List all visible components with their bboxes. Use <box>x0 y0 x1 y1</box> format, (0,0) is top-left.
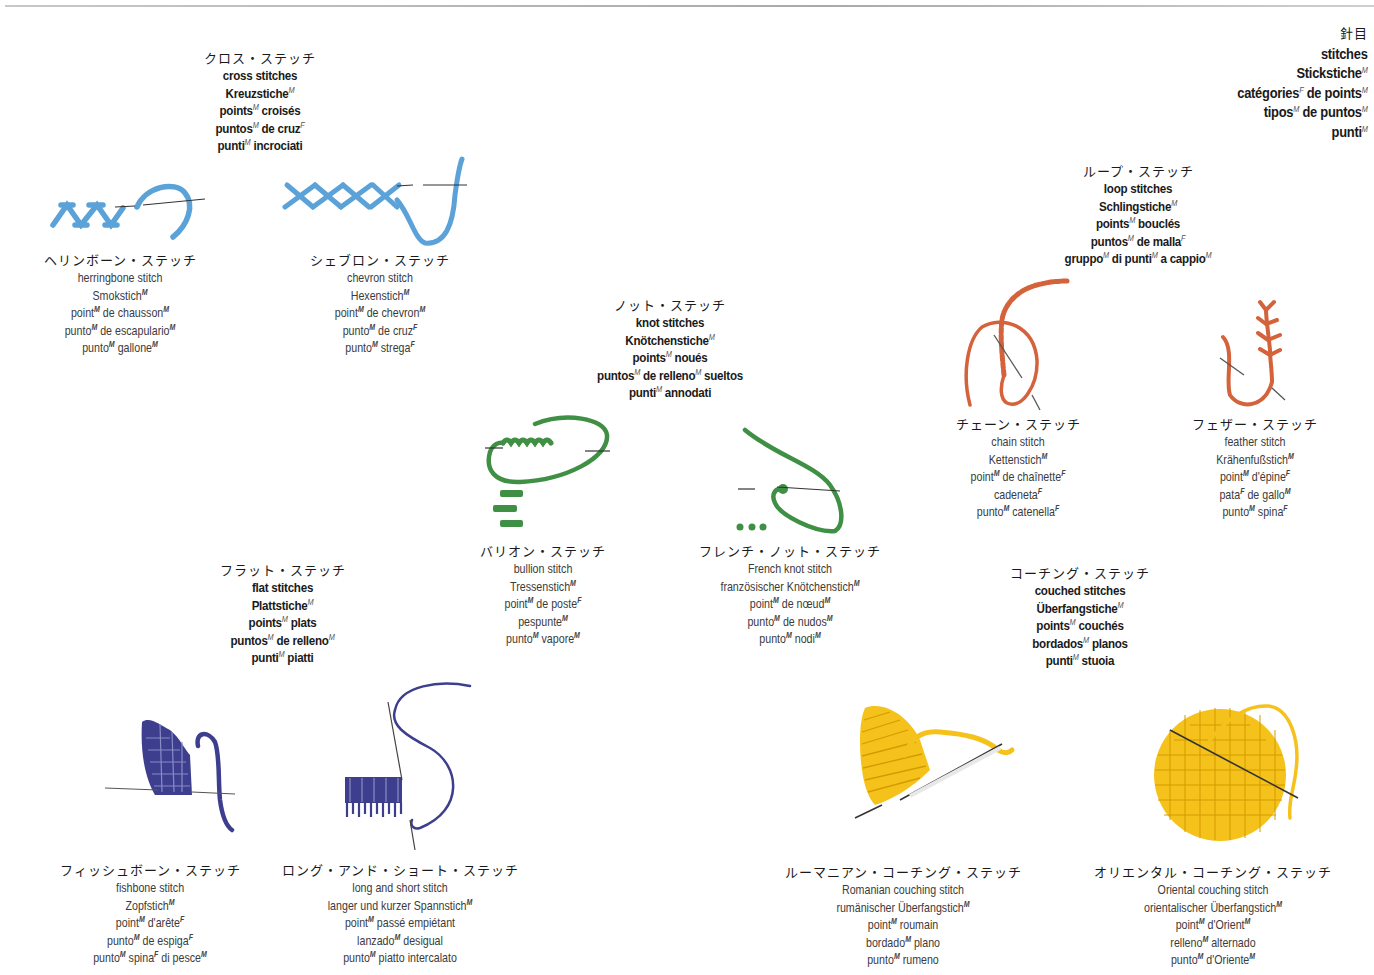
long-short-bars-icon <box>347 803 401 817</box>
label-line: bordadoM plano <box>796 934 1009 951</box>
top-rule <box>5 5 1374 7</box>
term-text: punto <box>82 340 109 355</box>
label-line: herringbone stitch <box>38 269 202 286</box>
label-line: puntiM incrociati <box>196 137 325 154</box>
item-feather-stitch: フェザー・ステッチfeather stitchKrähenfußstichMpo… <box>1155 416 1355 520</box>
label-line: pointM de posteF <box>461 595 625 612</box>
label-line: pointM de chaînetteF <box>936 468 1100 485</box>
label-line: Romanian couching stitch <box>796 881 1009 898</box>
term-text: relleno <box>1170 935 1202 950</box>
term-text: de escapulario <box>97 323 169 338</box>
gender-marker: M <box>1245 916 1251 926</box>
term-text: de relleno <box>273 633 328 648</box>
thread-navy-icon <box>394 684 470 829</box>
label-line: pointM passé empiétant <box>293 914 506 931</box>
term-text: de cruz <box>258 121 300 136</box>
term-text: ルーマニアン・コーチング・ステッチ <box>785 865 1022 880</box>
label-line: rellenoM alternado <box>1106 934 1319 951</box>
label-line: lanzadoM desigual <box>293 932 506 949</box>
label-line: pointsM croisés <box>196 102 325 119</box>
label-line: rumänischer ÜberfangstichM <box>796 899 1009 916</box>
label-line: pointM d'épineF <box>1173 468 1337 485</box>
term-text: Romanian couching stitch <box>842 882 964 897</box>
term-text: puntos <box>1091 234 1128 249</box>
label-japanese: ノット・ステッチ <box>570 297 770 314</box>
term-text: クロス・ステッチ <box>204 51 316 66</box>
term-text: d'Orient <box>1205 917 1245 932</box>
label-line: puntoM d'OrienteM <box>1106 951 1319 968</box>
label-line: puntoM piatto intercalato <box>293 949 506 966</box>
label-line: orientalischer ÜberfangstichM <box>1106 899 1319 916</box>
gender-marker: M <box>1206 250 1212 260</box>
label-line: puntoM de cruzF <box>298 322 462 339</box>
term-text: orientalischer Überfangstich <box>1144 900 1276 915</box>
needle-icon <box>388 702 415 850</box>
term-text: piatto intercalato <box>376 950 457 965</box>
gender-marker: M <box>1249 951 1255 961</box>
term-text: nodi <box>792 631 815 646</box>
gender-marker: F <box>577 595 581 605</box>
term-text: de relleno <box>640 368 695 383</box>
gender-marker: F <box>1038 486 1042 496</box>
gender-marker: F <box>1181 233 1185 243</box>
term-text: point <box>71 305 94 320</box>
gender-marker: M <box>1285 486 1291 496</box>
term-text: Oriental couching stitch <box>1158 882 1269 897</box>
term-text: punto <box>1222 504 1249 519</box>
term-text: pespunte <box>518 614 562 629</box>
gender-marker: M <box>824 595 830 605</box>
category-loop-stitches: ループ・ステッチloop stitchesSchlingsticheMpoint… <box>1038 163 1238 267</box>
term-text: point <box>1220 469 1243 484</box>
term-text: bordados <box>1032 636 1083 651</box>
gender-marker: M <box>709 332 715 342</box>
term-text: pata <box>1219 487 1240 502</box>
long-and-short-stitch-illustration <box>340 680 480 855</box>
term-text: punto <box>345 340 372 355</box>
term-text: ループ・ステッチ <box>1083 164 1194 179</box>
gender-marker: M <box>1118 600 1124 610</box>
label-line: puntoM de escapularioM <box>38 322 202 339</box>
term-text: long and short stitch <box>352 880 447 895</box>
item-french-knot-stitch: フレンチ・ノット・ステッチFrench knot stitchfranzösis… <box>670 543 910 647</box>
thread-navy-icon <box>198 734 232 830</box>
thread-blue-icon <box>285 159 462 243</box>
gender-marker: M <box>1362 65 1368 75</box>
label-japanese: ヘリンボーン・ステッチ <box>20 252 220 269</box>
category-knot-stitches: ノット・ステッチknot stitchesKnötchensticheMpoin… <box>570 297 770 401</box>
gender-marker: M <box>1276 899 1282 909</box>
label-japanese: ループ・ステッチ <box>1038 163 1238 180</box>
term-text: d'arête <box>145 915 180 930</box>
term-text: fishbone stitch <box>116 880 184 895</box>
term-text: de chausson <box>100 305 163 320</box>
chain-stitch-illustration <box>962 275 1082 410</box>
term-text: tipos <box>1264 103 1294 120</box>
term-text: puntos <box>230 633 267 648</box>
item-bullion-stitch: バリオン・ステッチbullion stitchTressenstichMpoin… <box>443 543 643 647</box>
term-text: punti <box>251 650 278 665</box>
term-text: points <box>1036 618 1069 633</box>
item-oriental-couching-stitch: オリエンタル・コーチング・ステッチOriental couching stitc… <box>1083 864 1343 968</box>
term-text: Kreuzstiche <box>226 86 289 101</box>
label-line: pointM d'OrientM <box>1106 916 1319 933</box>
term-text: sueltos <box>701 368 743 383</box>
label-line: pataF de galloM <box>1173 486 1337 503</box>
term-text: Schlingstiche <box>1099 199 1171 214</box>
term-text: punti <box>218 138 245 153</box>
label-line: puntiM <box>1238 122 1368 142</box>
term-text: punto <box>977 504 1004 519</box>
term-text: strega <box>378 340 411 355</box>
label-line: SchlingsticheM <box>1052 198 1224 215</box>
gender-marker: M <box>403 287 409 297</box>
thread-navy-icon <box>142 720 192 795</box>
label-japanese: ルーマニアン・コーチング・ステッチ <box>773 864 1033 881</box>
item-chain-stitch: チェーン・ステッチchain stitchKettenstichMpointM … <box>918 416 1118 520</box>
label-line: Oriental couching stitch <box>1106 881 1319 898</box>
term-text: point <box>868 917 891 932</box>
label-line: cross stitches <box>196 67 325 84</box>
term-text: de malla <box>1134 234 1181 249</box>
label-japanese: オリエンタル・コーチング・ステッチ <box>1083 864 1343 881</box>
label-japanese: フラット・ステッチ <box>200 562 365 579</box>
term-text: punti <box>1046 653 1073 668</box>
term-text: point <box>750 596 773 611</box>
label-line: puntiM piatti <box>212 649 354 666</box>
